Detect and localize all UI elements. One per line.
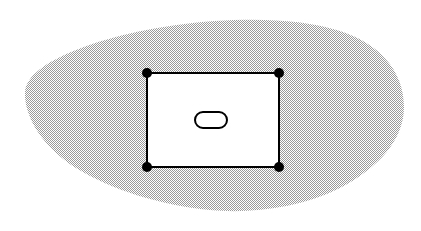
inner-rounded-oval-shape [195, 112, 227, 128]
figure-svg [0, 0, 421, 231]
figure-canvas [0, 0, 421, 231]
corner-vertex-dot [142, 68, 152, 78]
corner-vertex-dot [142, 162, 152, 172]
corner-vertex-dot [274, 162, 284, 172]
corner-vertex-dot [274, 68, 284, 78]
